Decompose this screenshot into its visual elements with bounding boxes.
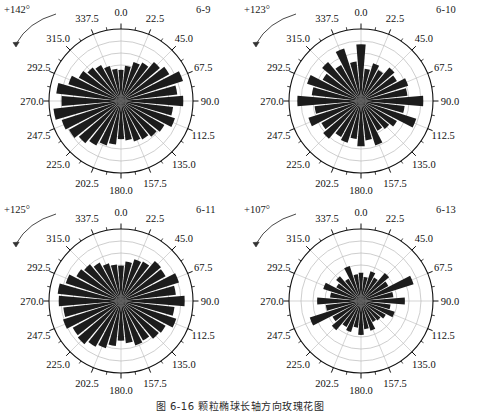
angle-tick-label: 202.5 bbox=[315, 178, 339, 189]
angle-tick-label: 180.0 bbox=[349, 185, 373, 196]
panel-6-13-rotation-label: +107° bbox=[244, 204, 270, 215]
angle-tick-label: 270.0 bbox=[260, 296, 284, 307]
angle-tick-label: 45.0 bbox=[415, 233, 433, 244]
angle-tick-label: 67.5 bbox=[434, 62, 452, 73]
panel-6-9-title: 6-9 bbox=[196, 4, 211, 15]
angle-tick-label: 67.5 bbox=[194, 62, 212, 73]
angle-tick-label: 90.0 bbox=[201, 296, 219, 307]
angle-tick-label: 157.5 bbox=[383, 178, 407, 189]
angle-tick-label: 202.5 bbox=[75, 178, 99, 189]
angle-tick-label: 337.5 bbox=[315, 213, 339, 224]
panel-grid: 0.022.545.067.590.0112.5135.0157.5180.02… bbox=[0, 0, 480, 400]
angle-tick-label: 270.0 bbox=[20, 96, 44, 107]
figure-rose-diagrams: 0.022.545.067.590.0112.5135.0157.5180.02… bbox=[0, 0, 480, 415]
panel-6-9-plot: 0.022.545.067.590.0112.5135.0157.5180.02… bbox=[0, 0, 240, 203]
panel-6-9-rotation-label: +142° bbox=[4, 4, 30, 15]
angle-tick-label: 292.5 bbox=[27, 62, 51, 73]
angle-tick-label: 180.0 bbox=[349, 385, 373, 396]
angle-tick-label: 45.0 bbox=[415, 33, 433, 44]
angle-tick-label: 157.5 bbox=[143, 178, 167, 189]
angle-tick-label: 90.0 bbox=[441, 296, 459, 307]
angle-tick-label: 0.0 bbox=[114, 207, 127, 218]
angle-tick-label: 112.5 bbox=[432, 330, 455, 341]
angle-tick-label: 112.5 bbox=[432, 130, 455, 141]
panel-6-10-plot: 0.022.545.067.590.0112.5135.0157.5180.02… bbox=[240, 0, 480, 203]
angle-tick-label: 135.0 bbox=[412, 159, 436, 170]
panel-6-11-plot: 0.022.545.067.590.0112.5135.0157.5180.02… bbox=[0, 203, 240, 400]
angle-tick-label: 225.0 bbox=[46, 359, 70, 370]
rose-panel-6-13: 0.022.545.067.590.0112.5135.0157.5180.02… bbox=[240, 203, 480, 400]
angle-tick-label: 90.0 bbox=[201, 96, 219, 107]
angle-tick-label: 67.5 bbox=[434, 262, 452, 273]
rose-petals bbox=[53, 62, 183, 146]
angle-tick-label: 135.0 bbox=[172, 359, 196, 370]
angle-tick-label: 315.0 bbox=[46, 33, 70, 44]
panel-6-11-rotation-label: +125° bbox=[4, 204, 30, 215]
angle-tick-label: 0.0 bbox=[114, 7, 127, 18]
angle-tick-label: 270.0 bbox=[20, 296, 44, 307]
angle-tick-label: 135.0 bbox=[172, 159, 196, 170]
angle-tick-label: 337.5 bbox=[75, 13, 99, 24]
angle-tick-label: 247.5 bbox=[27, 330, 51, 341]
angle-tick-label: 45.0 bbox=[175, 233, 193, 244]
angle-tick-label: 45.0 bbox=[175, 33, 193, 44]
angle-tick-label: 337.5 bbox=[315, 13, 339, 24]
angle-tick-label: 315.0 bbox=[46, 233, 70, 244]
angle-tick-label: 315.0 bbox=[286, 33, 310, 44]
angle-tick-label: 292.5 bbox=[267, 262, 291, 273]
angle-tick-label: 180.0 bbox=[109, 385, 133, 396]
angle-tick-label: 90.0 bbox=[441, 96, 459, 107]
angle-tick-label: 270.0 bbox=[260, 96, 284, 107]
panel-6-13-title: 6-13 bbox=[436, 204, 456, 215]
angle-tick-label: 22.5 bbox=[146, 13, 164, 24]
angle-tick-label: 22.5 bbox=[386, 13, 404, 24]
figure-caption: 图 6-16 颗粒椭球长轴方向玫瑰花图 bbox=[0, 399, 480, 415]
rose-petals bbox=[58, 259, 185, 348]
angle-tick-label: 247.5 bbox=[267, 330, 291, 341]
rose-panel-6-9: 0.022.545.067.590.0112.5135.0157.5180.02… bbox=[0, 0, 240, 203]
panel-6-13-plot: 0.022.545.067.590.0112.5135.0157.5180.02… bbox=[240, 203, 480, 400]
angle-tick-label: 67.5 bbox=[194, 262, 212, 273]
angle-tick-label: 247.5 bbox=[267, 130, 291, 141]
angle-tick-label: 315.0 bbox=[286, 233, 310, 244]
panel-6-11-title: 6-11 bbox=[196, 204, 216, 215]
angle-tick-label: 180.0 bbox=[109, 185, 133, 196]
angle-tick-label: 157.5 bbox=[383, 378, 407, 389]
angle-tick-label: 292.5 bbox=[27, 262, 51, 273]
angle-tick-label: 225.0 bbox=[46, 159, 70, 170]
angle-tick-label: 247.5 bbox=[27, 130, 51, 141]
angle-tick-label: 22.5 bbox=[386, 213, 404, 224]
rose-panel-6-10: 0.022.545.067.590.0112.5135.0157.5180.02… bbox=[240, 0, 480, 203]
angle-tick-label: 157.5 bbox=[143, 378, 167, 389]
panel-6-10-rotation-label: +123° bbox=[244, 4, 270, 15]
angle-tick-label: 225.0 bbox=[286, 159, 310, 170]
angle-tick-label: 0.0 bbox=[354, 207, 367, 218]
angle-tick-label: 0.0 bbox=[354, 7, 367, 18]
angle-tick-label: 292.5 bbox=[267, 62, 291, 73]
angle-tick-label: 112.5 bbox=[192, 330, 215, 341]
angle-tick-label: 225.0 bbox=[286, 359, 310, 370]
angle-tick-label: 135.0 bbox=[412, 359, 436, 370]
rose-panel-6-11: 0.022.545.067.590.0112.5135.0157.5180.02… bbox=[0, 203, 240, 400]
angle-tick-label: 202.5 bbox=[75, 378, 99, 389]
angle-tick-label: 202.5 bbox=[315, 378, 339, 389]
angle-tick-label: 337.5 bbox=[75, 213, 99, 224]
angle-tick-label: 112.5 bbox=[192, 130, 215, 141]
angle-tick-label: 22.5 bbox=[146, 213, 164, 224]
panel-6-10-title: 6-10 bbox=[436, 4, 456, 15]
